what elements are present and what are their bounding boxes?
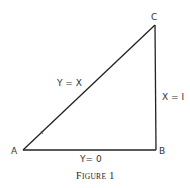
edge-label-ac: Y = X [56,78,82,88]
edge-label-bc: X = I [162,92,184,102]
figure-caption: FIGURE1 [76,170,115,181]
caption-rest: IGURE [82,172,107,181]
edge-bc-vertical [155,25,156,150]
triangle-diagram: A B C Y = X X = I Y= 0 FIGURE1 [0,0,190,188]
vertex-label-b: B [159,146,165,156]
vertex-label-a: A [11,146,18,156]
edge-ac-hypotenuse [23,25,155,150]
vertex-label-c: C [151,12,157,22]
edge-label-ab: Y= 0 [79,154,102,164]
figure-1: A B C Y = X X = I Y= 0 FIGURE1 [0,0,190,188]
caption-number: 1 [109,170,114,181]
